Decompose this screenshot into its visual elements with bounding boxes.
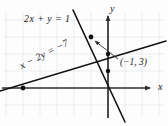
annotation-leader-line xyxy=(95,41,118,59)
x-intercept-dot xyxy=(21,86,26,91)
grid-lines xyxy=(4,12,164,116)
line-graph-figure: 2x + y = 1 x − 2y = −7 (−1, 3) x y xyxy=(0,0,168,126)
intersection-dot xyxy=(89,35,94,40)
line-x-minus-2y-equals-neg7 xyxy=(0,41,166,91)
y-intercept-dot-2 xyxy=(106,69,110,73)
axes xyxy=(2,16,150,118)
graph-canvas xyxy=(0,0,168,126)
